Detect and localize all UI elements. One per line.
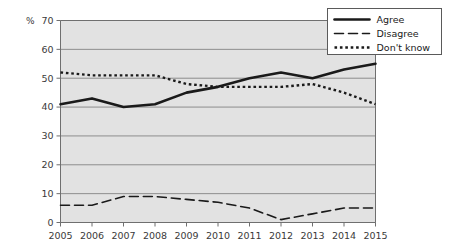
y-tick-label-40: 40 <box>41 101 53 112</box>
legend: AgreeDisagreeDon't know <box>328 9 442 55</box>
legend-label-don-t-know: Don't know <box>377 42 431 53</box>
y-tick-label-30: 30 <box>41 130 53 141</box>
x-axis-ticks: 2005200620072008200920102011201220132014… <box>48 223 387 241</box>
legend-label-disagree: Disagree <box>377 28 419 39</box>
x-tick-label-2011: 2011 <box>237 230 261 241</box>
line-chart: 010203040506070%200520062007200820092010… <box>0 0 449 248</box>
x-tick-label-2013: 2013 <box>300 230 324 241</box>
y-tick-label-0: 0 <box>47 217 53 228</box>
y-tick-label-50: 50 <box>41 73 53 84</box>
y-axis-unit-label: % <box>26 16 35 26</box>
y-tick-label-20: 20 <box>41 159 53 170</box>
x-tick-label-2005: 2005 <box>48 230 72 241</box>
x-tick-label-2010: 2010 <box>206 230 230 241</box>
y-axis-ticks: 010203040506070 <box>41 15 60 228</box>
chart-canvas: 010203040506070%200520062007200820092010… <box>0 0 449 248</box>
x-tick-label-2007: 2007 <box>111 230 135 241</box>
x-tick-label-2012: 2012 <box>269 230 293 241</box>
x-tick-label-2008: 2008 <box>143 230 167 241</box>
legend-label-agree: Agree <box>377 14 405 25</box>
x-tick-label-2014: 2014 <box>332 230 356 241</box>
y-tick-label-10: 10 <box>41 188 53 199</box>
x-tick-label-2015: 2015 <box>363 230 387 241</box>
x-tick-label-2006: 2006 <box>80 230 104 241</box>
y-tick-label-70: 70 <box>41 15 53 26</box>
y-tick-label-60: 60 <box>41 44 53 55</box>
x-tick-label-2009: 2009 <box>174 230 198 241</box>
